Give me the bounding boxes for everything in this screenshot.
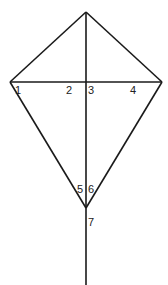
kite-edge-bottom-left bbox=[10, 82, 86, 208]
kite-diagram bbox=[0, 0, 168, 285]
angle-label-5: 5 bbox=[77, 184, 83, 195]
kite-edge-top-left bbox=[10, 12, 86, 82]
angle-label-3: 3 bbox=[88, 85, 94, 96]
kite-edge-bottom-right bbox=[86, 82, 162, 208]
angle-label-2: 2 bbox=[66, 85, 72, 96]
kite-edge-top-right bbox=[86, 12, 162, 82]
angle-label-1: 1 bbox=[15, 85, 21, 96]
angle-label-6: 6 bbox=[88, 184, 94, 195]
angle-label-4: 4 bbox=[130, 85, 136, 96]
angle-label-7: 7 bbox=[88, 217, 94, 228]
